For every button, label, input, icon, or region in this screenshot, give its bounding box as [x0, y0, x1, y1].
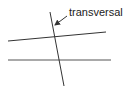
transversal-label: transversal: [69, 7, 123, 18]
arrow-icon: [55, 16, 67, 25]
upper-line: [8, 32, 106, 41]
